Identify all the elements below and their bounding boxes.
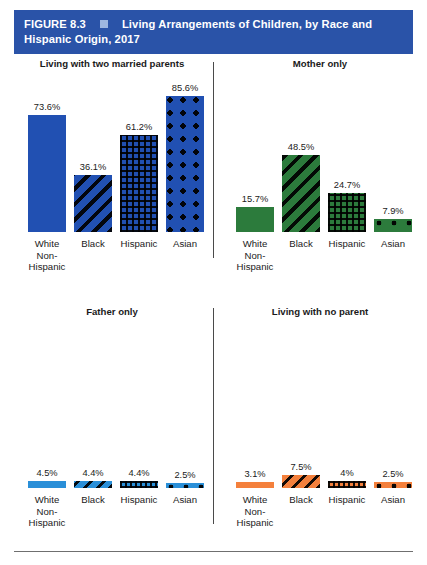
bar-label-black: Black xyxy=(289,238,312,250)
bar-label-line-1: Black xyxy=(81,238,104,250)
bar-label-hispanic: Hispanic xyxy=(329,494,366,506)
square-bullet-icon xyxy=(100,20,108,28)
bar-value-asian: 7.9% xyxy=(382,206,403,217)
bar-value-white-non-hispanic: 3.1% xyxy=(244,469,265,480)
bar-value-hispanic: 61.2% xyxy=(126,122,152,133)
bar-column-white-non-hispanic[interactable]: 3.1% White Non- Hispanic xyxy=(236,320,274,488)
bar-black[interactable] xyxy=(74,175,112,232)
panel-title-father-only: Father only xyxy=(14,306,210,318)
bar-column-asian[interactable]: 2.5% Asian xyxy=(374,320,412,488)
bar-label-line-1: Asian xyxy=(173,494,197,506)
bar-column-black[interactable]: 48.5% Black xyxy=(282,72,320,232)
bar-label-line-3: Hispanic xyxy=(237,261,274,273)
divider-vertical-top xyxy=(213,62,214,258)
bar-label-white-non-hispanic: White Non- Hispanic xyxy=(29,238,66,273)
plot-area-no-parent: 3.1% White Non- Hispanic 7.5% Black 4% H… xyxy=(222,320,418,488)
bar-value-asian: 85.6% xyxy=(172,83,198,94)
bar-column-asian[interactable]: 7.9% Asian xyxy=(374,72,412,232)
bar-column-hispanic[interactable]: 4.4% Hispanic xyxy=(120,320,158,488)
bar-label-hispanic: Hispanic xyxy=(121,494,158,506)
bar-column-black[interactable]: 36.1% Black xyxy=(74,72,112,232)
bar-asian[interactable] xyxy=(374,219,412,232)
bar-value-white-non-hispanic: 15.7% xyxy=(242,194,268,205)
panel-title-mother-only: Mother only xyxy=(222,58,418,70)
bar-label-line-1: White xyxy=(237,494,274,506)
bar-label-line-1: Asian xyxy=(381,238,405,250)
bar-label-asian: Asian xyxy=(173,494,197,506)
bar-label-line-2: Non- xyxy=(237,250,274,262)
bar-column-hispanic[interactable]: 61.2% Hispanic xyxy=(120,72,158,232)
bar-label-line-1: Black xyxy=(81,494,104,506)
bar-black[interactable] xyxy=(74,481,112,488)
bar-column-hispanic[interactable]: 24.7% Hispanic xyxy=(328,72,366,232)
bar-label-asian: Asian xyxy=(381,494,405,506)
bar-column-white-non-hispanic[interactable]: 15.7% White Non- Hispanic xyxy=(236,72,274,232)
bar-value-hispanic: 4% xyxy=(340,468,353,479)
plot-area-father-only: 4.5% White Non- Hispanic 4.4% Black 4.4%… xyxy=(14,320,210,488)
bar-label-asian: Asian xyxy=(173,238,197,250)
bar-label-line-1: Black xyxy=(289,494,312,506)
bar-label-white-non-hispanic: White Non- Hispanic xyxy=(237,238,274,273)
bar-label-line-2: Non- xyxy=(237,506,274,518)
bar-label-white-non-hispanic: White Non- Hispanic xyxy=(29,494,66,529)
bar-black[interactable] xyxy=(282,475,320,488)
panel-living-with-two-married-parents: Living with two married parents 73.6% Wh… xyxy=(14,58,210,258)
bar-white-non-hispanic[interactable] xyxy=(28,115,66,232)
plot-area-married-parents: 73.6% White Non- Hispanic 36.1% Black 61… xyxy=(14,72,210,232)
bar-hispanic[interactable] xyxy=(328,481,366,488)
bar-label-line-3: Hispanic xyxy=(237,517,274,529)
bar-value-asian: 2.5% xyxy=(174,470,195,481)
bar-asian[interactable] xyxy=(374,482,412,488)
bar-hispanic[interactable] xyxy=(120,481,158,488)
bar-value-hispanic: 4.4% xyxy=(128,468,149,479)
bar-label-line-2: Non- xyxy=(29,506,66,518)
panel-title-living-with-no-parent: Living with no parent xyxy=(222,306,418,318)
bar-label-line-1: Hispanic xyxy=(329,238,366,250)
bar-label-line-1: Hispanic xyxy=(121,494,158,506)
bar-label-line-1: Hispanic xyxy=(329,494,366,506)
figure-title-line-1: Living Arrangements of Children, by Race… xyxy=(122,17,372,32)
bar-label-line-3: Hispanic xyxy=(29,261,66,273)
bar-column-black[interactable]: 4.4% Black xyxy=(74,320,112,488)
bar-value-white-non-hispanic: 73.6% xyxy=(34,102,60,113)
bar-value-black: 36.1% xyxy=(80,162,106,173)
bar-hispanic[interactable] xyxy=(328,193,366,232)
divider-bottom-rule xyxy=(14,551,413,552)
bar-column-white-non-hispanic[interactable]: 4.5% White Non- Hispanic xyxy=(28,320,66,488)
bar-column-black[interactable]: 7.5% Black xyxy=(282,320,320,488)
bar-value-hispanic: 24.7% xyxy=(334,180,360,191)
bar-column-asian[interactable]: 2.5% Asian xyxy=(166,320,204,488)
bar-label-asian: Asian xyxy=(381,238,405,250)
panel-living-with-no-parent: Living with no parent 3.1% White Non- Hi… xyxy=(222,306,418,516)
bar-black[interactable] xyxy=(282,155,320,232)
bar-label-black: Black xyxy=(81,238,104,250)
bar-white-non-hispanic[interactable] xyxy=(236,482,274,488)
bar-column-hispanic[interactable]: 4% Hispanic xyxy=(328,320,366,488)
bar-hispanic[interactable] xyxy=(120,135,158,232)
bar-white-non-hispanic[interactable] xyxy=(236,207,274,232)
bar-label-line-1: Black xyxy=(289,238,312,250)
bar-label-black: Black xyxy=(289,494,312,506)
divider-vertical-bottom xyxy=(213,308,214,524)
figure-title-line-2: Hispanic Origin, 2017 xyxy=(24,32,403,47)
bar-label-white-non-hispanic: White Non- Hispanic xyxy=(237,494,274,529)
bar-label-black: Black xyxy=(81,494,104,506)
plot-area-mother-only: 15.7% White Non- Hispanic 48.5% Black 24… xyxy=(222,72,418,232)
bar-value-black: 7.5% xyxy=(290,462,311,473)
bar-value-white-non-hispanic: 4.5% xyxy=(36,468,57,479)
bar-column-white-non-hispanic[interactable]: 73.6% White Non- Hispanic xyxy=(28,72,66,232)
bar-asian[interactable] xyxy=(166,96,204,232)
bar-label-line-1: White xyxy=(29,238,66,250)
bar-white-non-hispanic[interactable] xyxy=(28,481,66,488)
bar-label-hispanic: Hispanic xyxy=(121,238,158,250)
bar-value-black: 48.5% xyxy=(288,142,314,153)
bar-asian[interactable] xyxy=(166,483,204,488)
bar-label-line-1: Hispanic xyxy=(121,238,158,250)
figure-header-line-1: FIGURE 8.3Living Arrangements of Childre… xyxy=(24,16,403,32)
bar-label-line-3: Hispanic xyxy=(29,517,66,529)
bar-value-black: 4.4% xyxy=(82,468,103,479)
bar-label-line-2: Non- xyxy=(29,250,66,262)
bar-label-line-1: Asian xyxy=(381,494,405,506)
bar-column-asian[interactable]: 85.6% Asian xyxy=(166,72,204,232)
panel-father-only: Father only 4.5% White Non- Hispanic 4.4… xyxy=(14,306,210,516)
